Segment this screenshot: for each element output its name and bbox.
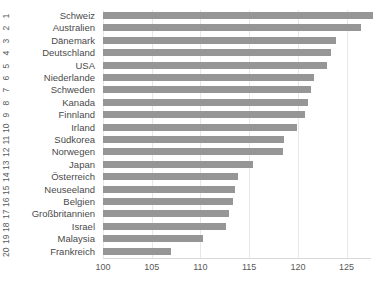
x-tick-labels: 100105110115120125 <box>0 262 387 280</box>
x-tick-label: 125 <box>339 262 354 272</box>
bar <box>103 24 361 31</box>
bar-row <box>103 233 371 245</box>
bar <box>103 210 229 217</box>
bar <box>103 148 283 155</box>
bar <box>103 62 327 69</box>
category-label: Großbritannien <box>32 208 95 220</box>
plot-area <box>103 10 371 258</box>
category-label: Dänemark <box>51 35 95 47</box>
bar-row <box>103 171 371 183</box>
bar-chart: 1234567891011121314151617181920 SchweizA… <box>0 0 387 294</box>
bar-row <box>103 47 371 59</box>
x-tick-label: 105 <box>144 262 159 272</box>
category-label: Frankreich <box>50 246 95 258</box>
bar-row <box>103 60 371 72</box>
category-label: Malaysia <box>58 233 96 245</box>
x-axis-line <box>103 258 371 259</box>
bar-row <box>103 159 371 171</box>
bar-row <box>103 84 371 96</box>
category-label: Schweden <box>51 84 95 96</box>
bar-row <box>103 208 371 220</box>
bar <box>103 198 233 205</box>
category-label: Kanada <box>62 97 95 109</box>
category-axis: SchweizAustralienDänemarkDeutschlandUSAN… <box>0 10 99 258</box>
category-label: Finnland <box>59 109 95 121</box>
bar <box>103 74 314 81</box>
bar-row <box>103 35 371 47</box>
bar <box>103 223 226 230</box>
bar <box>103 86 311 93</box>
bar-row <box>103 97 371 109</box>
category-label: Norwegen <box>52 146 95 158</box>
bar-row <box>103 246 371 258</box>
bar <box>103 161 253 168</box>
bar-series <box>103 10 371 258</box>
bar <box>103 136 284 143</box>
category-label: Deutschland <box>42 47 95 59</box>
bar <box>103 111 305 118</box>
bar <box>103 186 235 193</box>
x-tick-label: 115 <box>242 262 256 272</box>
bar-row <box>103 10 371 22</box>
category-label: Schweiz <box>60 10 95 22</box>
bar <box>103 37 336 44</box>
category-label: Belgien <box>63 196 95 208</box>
category-label: Irland <box>71 122 95 134</box>
category-label: Südkorea <box>54 134 95 146</box>
bar-row <box>103 134 371 146</box>
bar <box>103 49 331 56</box>
x-tick-label: 100 <box>95 262 110 272</box>
category-label: Japan <box>69 159 95 171</box>
bar-row <box>103 146 371 158</box>
x-tick-label: 120 <box>290 262 305 272</box>
bar <box>103 173 238 180</box>
category-label: Israel <box>72 221 95 233</box>
bar <box>103 124 297 131</box>
bar <box>103 235 203 242</box>
bar-row <box>103 184 371 196</box>
bar <box>103 99 308 106</box>
bar-row <box>103 109 371 121</box>
bar-row <box>103 221 371 233</box>
bar <box>103 248 171 255</box>
bar-row <box>103 22 371 34</box>
x-tick-label: 110 <box>193 262 207 272</box>
category-label: Österreich <box>51 171 95 183</box>
bar-row <box>103 196 371 208</box>
category-label: USA <box>75 60 95 72</box>
bar <box>103 12 373 19</box>
category-label: Niederlande <box>44 72 95 84</box>
category-label: Australien <box>53 22 95 34</box>
bar-row <box>103 122 371 134</box>
bar-row <box>103 72 371 84</box>
category-label: Neuseeland <box>44 184 95 196</box>
